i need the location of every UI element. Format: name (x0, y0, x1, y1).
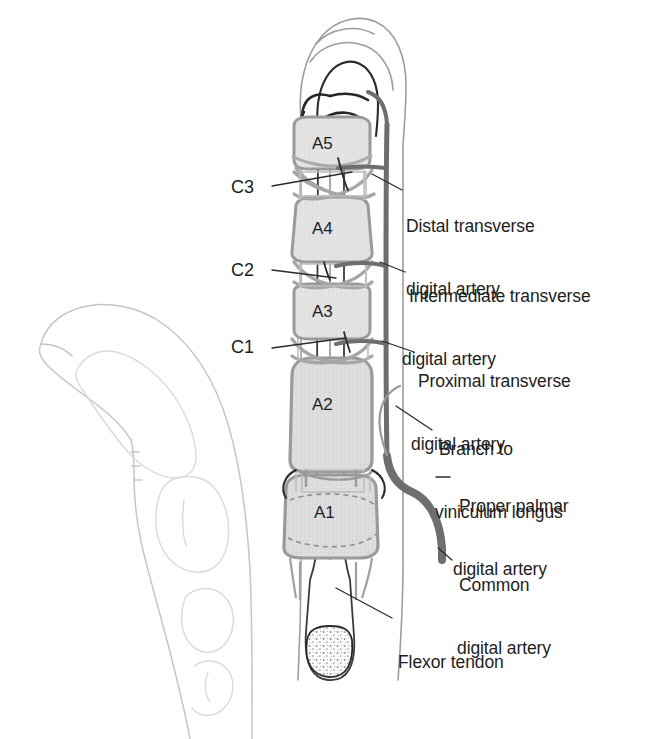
callout-line: Proper palmar (459, 496, 569, 517)
branch-to-viniculum-longus-vessel (379, 386, 400, 455)
pulley-A2 (290, 358, 372, 472)
pulley-label-A4: A4 (312, 218, 333, 239)
callout-line: Proximal transverse (418, 371, 571, 392)
lateral-finger-bones (76, 351, 234, 716)
pulley-label-A2: A2 (312, 394, 333, 415)
pulley-label-C3: C3 (231, 177, 254, 198)
pulley-label-C2: C2 (231, 260, 254, 281)
pulley-label-A3: A3 (312, 301, 333, 322)
pulley-label-A1: A1 (314, 502, 335, 523)
pulley-label-C1: C1 (231, 337, 254, 358)
anatomical-figure: A5 A4 A3 A2 A1 C3 C2 C1 Distal transvers… (0, 0, 650, 739)
distal-transverse-branch (338, 167, 386, 169)
callout-line: Common (459, 575, 551, 596)
callout-line: Distal transverse (406, 216, 535, 237)
callout-flexor-tendon: Flexor tendon (398, 610, 504, 715)
intermediate-transverse-branch (336, 263, 386, 266)
proximal-transverse-branch (336, 341, 387, 344)
callout-line: Flexor tendon (398, 652, 504, 673)
callout-line: Intermediate transverse (409, 286, 591, 307)
pulley-label-A5: A5 (312, 133, 333, 154)
lateral-finger-outline (40, 304, 252, 739)
